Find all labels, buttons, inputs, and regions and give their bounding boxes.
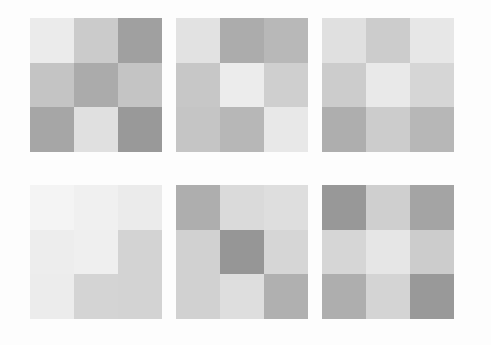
heatmap-cell: [264, 63, 308, 108]
heatmap-cell: [410, 63, 454, 108]
heatmap-cell: [410, 18, 454, 63]
heatmap-cell: [118, 274, 162, 319]
heatmap-cell: [220, 185, 264, 230]
heatmap-cell: [322, 274, 366, 319]
heatmap-cell: [264, 274, 308, 319]
heatmap-cell: [30, 185, 74, 230]
heatmap-cell: [30, 18, 74, 63]
heatmap-panel-4: [30, 185, 162, 319]
heatmap-cell: [410, 230, 454, 275]
heatmap-cell: [176, 18, 220, 63]
heatmap-panel-1: [30, 18, 162, 152]
heatmap-cell: [220, 274, 264, 319]
heatmap-cell: [220, 18, 264, 63]
heatmap-cell: [410, 185, 454, 230]
heatmap-cell: [322, 18, 366, 63]
heatmap-panel-3: [322, 18, 454, 152]
heatmap-cell: [176, 230, 220, 275]
heatmap-cell: [30, 230, 74, 275]
heatmap-cell: [30, 63, 74, 108]
heatmap-cell: [30, 274, 74, 319]
heatmap-cell: [118, 185, 162, 230]
heatmap-cell: [176, 274, 220, 319]
heatmap-cell: [322, 185, 366, 230]
heatmap-panel-6: [322, 185, 454, 319]
heatmap-cell: [366, 274, 410, 319]
heatmap-cell: [410, 107, 454, 152]
heatmap-cell: [264, 185, 308, 230]
heatmap-cell: [176, 185, 220, 230]
heatmap-cell: [322, 63, 366, 108]
figure-canvas: [0, 0, 491, 345]
heatmap-cell: [118, 230, 162, 275]
heatmap-cell: [322, 230, 366, 275]
heatmap-cell: [366, 185, 410, 230]
heatmap-cell: [74, 18, 118, 63]
heatmap-cell: [366, 107, 410, 152]
heatmap-cell: [220, 107, 264, 152]
heatmap-cell: [74, 274, 118, 319]
heatmap-cell: [176, 107, 220, 152]
heatmap-panel-5: [176, 185, 308, 319]
heatmap-cell: [74, 230, 118, 275]
heatmap-cell: [176, 63, 220, 108]
heatmap-cell: [118, 107, 162, 152]
heatmap-cell: [220, 230, 264, 275]
heatmap-cell: [264, 107, 308, 152]
heatmap-cell: [264, 18, 308, 63]
heatmap-cell: [410, 274, 454, 319]
heatmap-cell: [74, 63, 118, 108]
heatmap-cell: [220, 63, 264, 108]
heatmap-cell: [366, 63, 410, 108]
heatmap-cell: [74, 185, 118, 230]
heatmap-cell: [264, 230, 308, 275]
heatmap-cell: [118, 18, 162, 63]
heatmap-cell: [74, 107, 118, 152]
heatmap-cell: [322, 107, 366, 152]
heatmap-cell: [30, 107, 74, 152]
heatmap-cell: [366, 230, 410, 275]
heatmap-cell: [118, 63, 162, 108]
heatmap-panel-2: [176, 18, 308, 152]
heatmap-cell: [366, 18, 410, 63]
